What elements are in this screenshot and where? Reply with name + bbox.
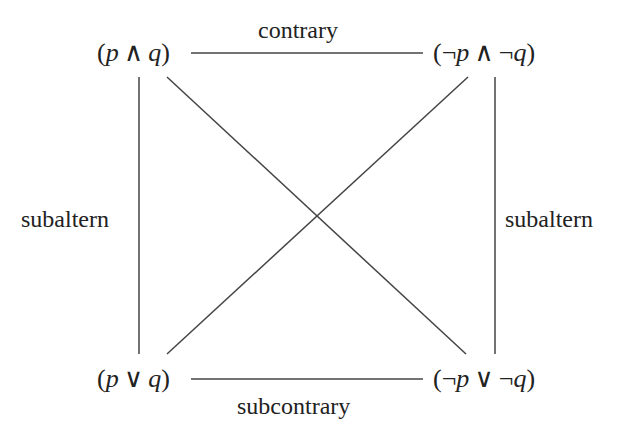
paren-open: (	[433, 38, 442, 67]
var-q: q	[148, 38, 161, 67]
negation: ¬	[442, 38, 457, 67]
paren-open: (	[97, 38, 106, 67]
var-q: q	[148, 364, 161, 393]
var-p: p	[456, 364, 469, 393]
negation: ¬	[499, 38, 514, 67]
node-top-left: (p ∧ q)	[97, 40, 170, 66]
paren-close: )	[526, 38, 535, 67]
paren-close: )	[161, 364, 170, 393]
var-p: p	[106, 38, 119, 67]
var-q: q	[513, 364, 526, 393]
or-operator: ∨	[475, 364, 494, 393]
and-operator: ∧	[475, 38, 494, 67]
paren-open: (	[97, 364, 106, 393]
label-subcontrary: subcontrary	[237, 394, 350, 418]
var-p: p	[456, 38, 469, 67]
negation: ¬	[442, 364, 457, 393]
label-subaltern-left: subaltern	[21, 207, 109, 231]
var-q: q	[513, 38, 526, 67]
var-p: p	[106, 364, 119, 393]
node-bottom-left: (p ∨ q)	[97, 366, 170, 392]
label-subaltern-right: subaltern	[505, 207, 593, 231]
node-bottom-right: (¬p ∨ ¬q)	[433, 366, 535, 392]
negation: ¬	[499, 364, 514, 393]
label-contrary: contrary	[258, 18, 338, 42]
paren-close: )	[161, 38, 170, 67]
paren-close: )	[526, 364, 535, 393]
and-operator: ∧	[124, 38, 143, 67]
or-operator: ∨	[124, 364, 143, 393]
node-top-right: (¬p ∧ ¬q)	[433, 40, 535, 66]
paren-open: (	[433, 364, 442, 393]
